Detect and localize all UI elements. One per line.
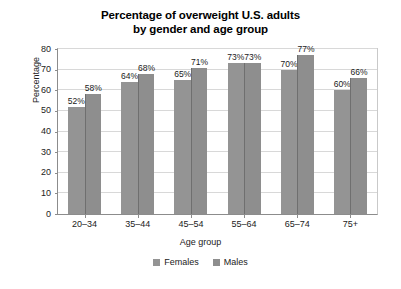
x-tick-label: 65–74 <box>267 220 327 229</box>
chart-legend: FemalesMales <box>0 258 401 267</box>
legend-swatch-icon <box>213 259 220 266</box>
y-tick-label: 50 <box>11 106 51 115</box>
chart-title: Percentage of overweight U.S. adults by … <box>0 9 401 36</box>
x-tick-label: 35–44 <box>108 220 168 229</box>
y-tick-label: 80 <box>11 45 51 54</box>
x-tick-label: 75+ <box>320 220 380 229</box>
y-tick-label: 70 <box>11 65 51 74</box>
x-tick-mark <box>244 215 245 218</box>
bar-value-label: 58% <box>85 84 102 93</box>
bar-value-label: 65% <box>174 70 191 79</box>
bar-females-65–74[interactable]: 70% <box>281 70 297 214</box>
legend-item-females[interactable]: Females <box>153 258 199 267</box>
bar-group: 60%66% <box>334 49 367 214</box>
x-tick-label: 45–54 <box>161 220 221 229</box>
bar-males-75+[interactable]: 66% <box>350 78 366 214</box>
chart-title-line-1: Percentage of overweight U.S. adults <box>0 9 401 23</box>
bar-females-35–44[interactable]: 64% <box>121 82 137 214</box>
bar-value-label: 73% <box>227 53 244 62</box>
x-axis-title: Age group <box>0 237 401 247</box>
y-tick-label: 60 <box>11 86 51 95</box>
bar-value-label: 60% <box>334 80 351 89</box>
x-tick-mark <box>350 215 351 218</box>
bar-females-75+[interactable]: 60% <box>334 90 350 214</box>
legend-swatch-icon <box>153 259 160 266</box>
bar-males-55–64[interactable]: 73% <box>244 63 260 214</box>
bar-value-label: 64% <box>121 72 138 81</box>
y-tick-label: 30 <box>11 148 51 157</box>
y-tick-label: 20 <box>11 168 51 177</box>
y-axis-title: Percentage <box>31 20 41 140</box>
bar-males-45–54[interactable]: 71% <box>191 68 207 214</box>
chart-title-line-2: by gender and age group <box>0 23 401 37</box>
bar-group: 64%68% <box>121 49 154 214</box>
x-tick-label: 20–34 <box>55 220 115 229</box>
bar-value-label: 68% <box>138 64 155 73</box>
legend-item-males[interactable]: Males <box>213 258 248 267</box>
bar-value-label: 73% <box>244 53 261 62</box>
x-tick-mark <box>138 215 139 218</box>
y-tick-label: 40 <box>11 127 51 136</box>
y-tick-label: 10 <box>11 189 51 198</box>
x-tick-mark <box>191 215 192 218</box>
x-tick-mark <box>85 215 86 218</box>
bar-group: 73%73% <box>228 49 261 214</box>
bar-group: 52%58% <box>68 49 101 214</box>
bar-females-45–54[interactable]: 65% <box>174 80 190 214</box>
bar-females-55–64[interactable]: 73% <box>228 63 244 214</box>
bar-males-20–34[interactable]: 58% <box>85 94 101 214</box>
bar-value-label: 52% <box>68 97 85 106</box>
bar-value-label: 71% <box>191 58 208 67</box>
y-tick-label: 0 <box>11 210 51 219</box>
bars-layer: 52%58%64%68%65%71%73%73%70%77%60%66% <box>58 49 377 214</box>
bar-group: 65%71% <box>174 49 207 214</box>
bar-males-65–74[interactable]: 77% <box>297 55 313 214</box>
legend-label: Males <box>224 258 248 267</box>
legend-label: Females <box>164 258 199 267</box>
x-tick-mark <box>297 215 298 218</box>
bar-value-label: 77% <box>297 45 314 54</box>
bar-value-label: 66% <box>351 68 368 77</box>
x-tick-label: 55–64 <box>214 220 274 229</box>
bar-males-35–44[interactable]: 68% <box>138 74 154 214</box>
bar-value-label: 70% <box>280 60 297 69</box>
bar-group: 70%77% <box>281 49 314 214</box>
bar-females-20–34[interactable]: 52% <box>68 107 84 214</box>
